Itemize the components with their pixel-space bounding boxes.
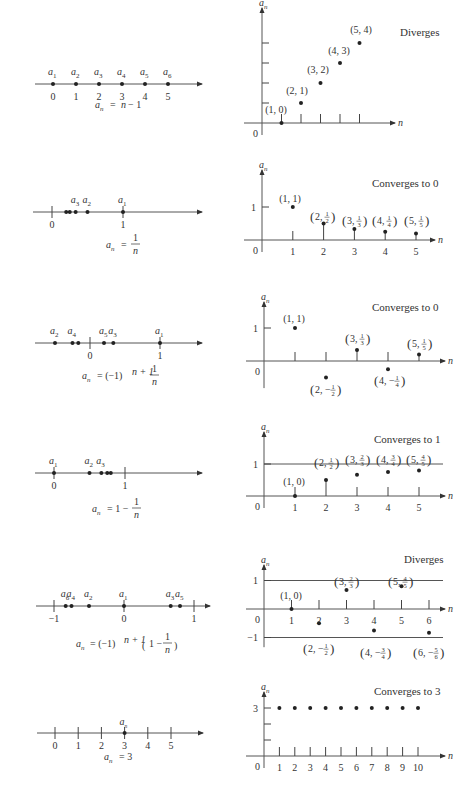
x-axis-label: n bbox=[448, 750, 453, 761]
data-point bbox=[324, 706, 328, 710]
sequence-point bbox=[178, 604, 182, 608]
data-point bbox=[385, 706, 389, 710]
svg-text:1: 1 bbox=[133, 232, 138, 243]
point-label: (1, 0) bbox=[283, 476, 305, 488]
svg-text:1: 1 bbox=[387, 214, 390, 221]
svg-text:1: 1 bbox=[419, 214, 422, 221]
svg-text:(: ( bbox=[310, 382, 314, 397]
point-label: (4,34) bbox=[376, 452, 401, 467]
data-point bbox=[339, 706, 343, 710]
svg-text:4,: 4, bbox=[377, 215, 385, 226]
panel-5: −101a1a2a3a4a5a6an= (−1)n + 1(1 −1n)ann0… bbox=[36, 554, 453, 660]
y-tick-label: −1 bbox=[247, 632, 258, 643]
svg-text:(: ( bbox=[310, 209, 314, 224]
sequence-point bbox=[53, 341, 57, 345]
x-tick-label: 2 bbox=[292, 762, 297, 773]
sequence-point bbox=[71, 341, 75, 345]
svg-text:1: 1 bbox=[165, 631, 170, 642]
data-point bbox=[317, 621, 321, 625]
svg-text:4: 4 bbox=[387, 221, 391, 228]
svg-text:− 1: − 1 bbox=[128, 99, 141, 110]
svg-text:3,: 3, bbox=[350, 333, 358, 344]
data-point bbox=[416, 706, 420, 710]
svg-text:(: ( bbox=[334, 574, 338, 589]
svg-text:): ) bbox=[397, 452, 401, 467]
svg-text:2,: 2, bbox=[319, 457, 327, 468]
x-tick-label: 6 bbox=[427, 615, 432, 626]
term-label: a1 bbox=[155, 325, 164, 339]
svg-text:n: n bbox=[165, 644, 170, 655]
term-label: an bbox=[106, 239, 115, 253]
point-label: (3,13) bbox=[342, 213, 367, 228]
tick-label: 1 bbox=[76, 740, 81, 751]
svg-text:6, −: 6, − bbox=[418, 647, 434, 658]
svg-text:3: 3 bbox=[360, 339, 363, 346]
panel-1-title: Diverges bbox=[400, 26, 440, 38]
x-axis-label: n bbox=[448, 355, 453, 366]
svg-text:n: n bbox=[121, 99, 126, 110]
sequence-point bbox=[102, 341, 106, 345]
svg-text:1: 1 bbox=[324, 642, 327, 649]
point-label: (4, 3) bbox=[328, 45, 350, 57]
sequence-point bbox=[74, 210, 78, 214]
x-tick-label: 3 bbox=[355, 502, 360, 513]
formula: an= (−1)n + 11n bbox=[82, 363, 159, 387]
svg-text:2, −: 2, − bbox=[315, 384, 331, 395]
svg-text:): ) bbox=[366, 331, 370, 346]
svg-text:5: 5 bbox=[422, 344, 425, 351]
svg-text:(: ( bbox=[372, 213, 376, 228]
svg-text:): ) bbox=[330, 641, 334, 656]
sequence-point bbox=[87, 604, 91, 608]
panel-1: 012345a1a2a3a4a5a6an= n − 1ann0(1, 0)(2,… bbox=[35, 0, 403, 139]
svg-text:2: 2 bbox=[329, 463, 332, 470]
tick-label: −1 bbox=[49, 613, 60, 624]
term-label: a1 bbox=[48, 66, 57, 80]
tick-label: 5 bbox=[169, 740, 174, 751]
x-tick-label: 1 bbox=[290, 246, 295, 257]
term-label: an bbox=[261, 554, 270, 568]
x-tick-label: 2 bbox=[321, 246, 326, 257]
data-point bbox=[358, 41, 362, 45]
sequence-point bbox=[51, 82, 55, 86]
data-point bbox=[277, 706, 281, 710]
sequence-point bbox=[158, 341, 162, 345]
term-label: a5 bbox=[175, 588, 184, 602]
svg-text:1: 1 bbox=[329, 456, 332, 463]
x-axis-label: n bbox=[438, 234, 443, 245]
svg-text:5,: 5, bbox=[411, 454, 419, 465]
sequence-plot: ann0112345(1, 1)(2,12)(3,13)(4,14)(5,15) bbox=[244, 159, 443, 257]
term-label: a5 bbox=[140, 66, 149, 80]
svg-text:2, −: 2, − bbox=[308, 643, 324, 654]
sequence-point bbox=[64, 210, 68, 214]
sequence-point bbox=[123, 731, 127, 735]
sequence-point bbox=[120, 82, 124, 86]
svg-text:= (−1): = (−1) bbox=[97, 370, 122, 382]
term-label: an bbox=[92, 503, 101, 517]
term-label: a2 bbox=[50, 325, 59, 339]
x-tick-label: 8 bbox=[385, 762, 390, 773]
term-label: an bbox=[261, 421, 270, 435]
tick-label: 4 bbox=[143, 91, 148, 102]
plots-layer: 012345a1a2a3a4a5a6an= n − 1ann0(1, 0)(2,… bbox=[33, 0, 453, 773]
svg-text:5,: 5, bbox=[412, 338, 420, 349]
svg-text:4: 4 bbox=[421, 453, 425, 460]
term-label: a6 bbox=[163, 66, 172, 80]
tick-label: 2 bbox=[99, 740, 104, 751]
term-label: an bbox=[259, 0, 268, 11]
panel-2-title: Converges to 0 bbox=[372, 177, 439, 189]
number-line: 01a1a2a3a4a5 bbox=[35, 325, 202, 361]
svg-text:): ) bbox=[409, 574, 413, 589]
tick-label: 1 bbox=[121, 219, 126, 230]
x-tick-label: 7 bbox=[369, 762, 374, 773]
x-tick-label: 4 bbox=[386, 502, 391, 513]
data-point bbox=[417, 352, 421, 356]
svg-text:3: 3 bbox=[357, 221, 360, 228]
x-tick-label: 1 bbox=[277, 762, 282, 773]
svg-text:2: 2 bbox=[325, 217, 328, 224]
tick-label: 3 bbox=[122, 740, 127, 751]
sequence-point bbox=[122, 604, 126, 608]
svg-text:2: 2 bbox=[331, 390, 334, 397]
sequence-point bbox=[109, 471, 113, 475]
sequence-point bbox=[68, 210, 72, 214]
svg-text:(: ( bbox=[388, 574, 392, 589]
